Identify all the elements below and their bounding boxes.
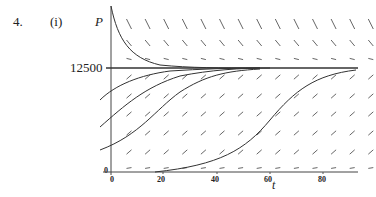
solution-curves (100, 6, 356, 172)
direction-field (127, 19, 374, 168)
curve-above (111, 6, 260, 68)
direction-field-plot (0, 0, 376, 197)
curve-4 (155, 70, 356, 172)
curve-1 (100, 68, 260, 100)
curve-3 (100, 69, 260, 150)
